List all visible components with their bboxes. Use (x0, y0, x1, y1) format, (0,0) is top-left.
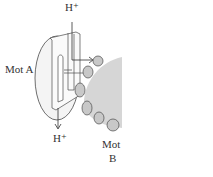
label-mot-b-line1: Mot (102, 139, 120, 150)
label-mot-b-line2: B (109, 153, 116, 164)
flagellar-motor-diagram (0, 0, 213, 177)
label-mot-a: Mot A (5, 64, 33, 75)
label-h-bottom: H⁺ (53, 133, 67, 144)
label-h-top: H⁺ (65, 2, 79, 13)
